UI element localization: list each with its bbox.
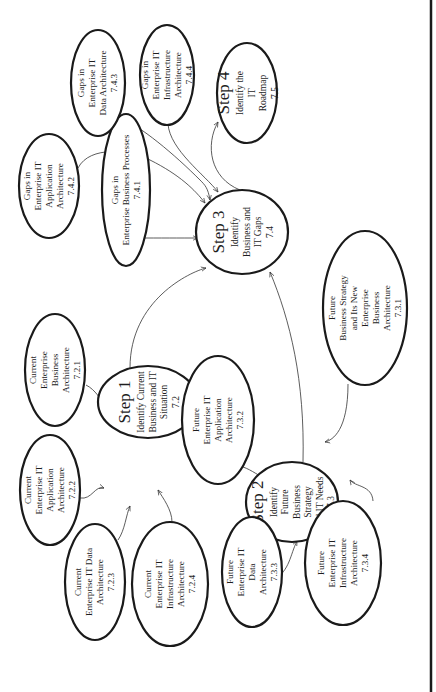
node-label-line: Future [225,560,235,584]
node-label-line: Identify Current [136,371,146,433]
node-section-number: 7.2.3 [106,572,116,591]
edge-step2-to-step3 [270,272,303,462]
node-n743: Gaps inEnterprise ITData Architecture7.4… [71,30,125,136]
node-label-line: Application [44,164,54,208]
node-section-number: 7.4.4 [184,65,194,84]
node-label-line: Current [143,570,153,599]
node-n723: CurrentEnterprise IT DataArchitecture7.2… [65,524,125,640]
node-label-line: Identify [269,487,279,517]
node-label-line: Architecture [173,52,183,98]
node-section-number: 7.4.1 [132,180,142,199]
node-section-number: 7.3.1 [393,298,403,317]
edge-n722-to-step1 [80,488,104,499]
node-label-line: Infrastructure [338,538,348,588]
node-label-line: Enterprise IT [87,58,97,107]
node-label-line: Architecture [95,559,105,605]
node-step4: Step 4Identify theITRoadmap7.5 [214,43,280,143]
node-label-line: Enterprise IT [151,50,161,99]
node-label-line: Architecture [349,540,359,586]
node-label-line: Data Architecture [98,50,108,115]
node-n741: Gaps inEnterprise Business Processes7.4.… [102,114,150,266]
node-label-line: Gaps in [110,175,120,204]
edge-n744-to-step3 [168,124,218,192]
node-label-line: Enterprise IT [34,465,44,514]
node-n733: FutureEnterprise ITDataArchitecture7.3.3 [222,517,282,627]
node-n734: FutureEnterprise ITInfrastructureArchite… [305,501,381,625]
node-section-number: 7.2.2 [67,480,77,499]
node-label-line: Business and IT [148,371,158,432]
node-label-line: Enterprise IT Data [84,548,94,616]
node-label-line: Enterprise [39,351,49,389]
node-section-number: 7.3.3 [269,562,279,581]
nodes-layer: Step 1Identify CurrentBusiness and ITSit… [19,25,407,646]
node-section-number: 7.2.4 [187,574,197,593]
node-label-line: Current [23,476,33,505]
node-label-line: Business [292,485,302,519]
node-section-number: 7.5 [270,87,280,99]
node-label-line: Architecture [176,561,186,607]
node-section-number: 7.4.3 [109,73,119,92]
edge-n734-to-step2 [350,480,373,501]
node-label-line: Gaps in [22,171,32,200]
node-label-line: Enterprise [360,289,370,327]
node-label-line: Infrastructure [165,559,175,609]
node-label-line: Business and [242,207,252,257]
node-label-line: IT [247,88,257,97]
node-label-line: Strategy [303,486,313,518]
node-label-line: Future [280,490,290,515]
node-label-line: Architecture [224,397,234,443]
node-section-number: 7.2.1 [72,360,82,379]
node-n744: Gaps inEnterprise ITInfrastructureArchit… [140,25,195,125]
node-label-line: Enterprise IT [327,538,337,587]
node-section-number: 7.3.4 [360,553,370,572]
node-label-line: Application [45,468,55,512]
node-label-line: Application [213,398,223,442]
node-section-number: 7.4.2 [66,176,76,195]
node-label-line: Architecture [56,467,66,513]
node-label-line: Gaps in [76,68,86,97]
node-section-number: 7.2 [171,396,181,408]
node-label-line: Architecture [55,163,65,209]
node-label-line: Enterprise IT [202,395,212,444]
node-label-line: Business Strategy [338,275,348,341]
edge-step1-to-step3 [130,268,206,368]
node-section-number: 7.3.2 [235,410,245,429]
node-label-line: Identify the [235,71,245,115]
node-n721: CurrentEnterpriseBusinessArchitecture7.2… [25,314,85,426]
node-label-line: IT Gaps [253,216,263,247]
node-n732: FutureEnterprise ITApplicationArchitectu… [182,356,254,484]
node-label-line: Enterprise IT [33,161,43,210]
node-label-line: Gaps in [140,60,150,89]
node-title: Step 1 [115,381,134,424]
node-label-line: Architecture [382,285,392,331]
node-label-line: Business [50,353,60,386]
node-label-line: and Its New [349,285,359,330]
node-label-line: Future [327,296,337,320]
node-label-line: Current [28,356,38,385]
node-title: Step 3 [209,211,228,254]
node-section-number: 7.4 [265,226,275,238]
node-label-line: Infrastructure [162,50,172,100]
edge-n724-to-step1 [158,490,172,522]
node-label-line: Roadmap [258,75,268,112]
node-label-line: Business [371,291,381,324]
node-label-line: Enterprise IT [154,559,164,608]
node-title: Step 4 [214,71,233,114]
node-label-line: Enterprise Business Processes [121,134,131,245]
node-label-line: Data [247,563,257,580]
node-label-line: Current [73,568,83,597]
node-label-line: Future [316,551,326,575]
node-n742: Gaps inEnterprise ITApplicationArchitect… [19,134,79,238]
node-label-line: Identify [230,217,240,247]
node-label-line: Situation [159,385,169,420]
node-n731: FutureBusiness Strategyand Its NewEnterp… [323,231,407,385]
node-label-line: Enterprise IT [236,547,246,596]
edge-n723-to-step1 [118,506,130,540]
node-step3: Step 3IdentifyBusiness andIT Gaps7.4 [196,190,288,274]
edge-n731-to-step2 [325,384,348,442]
node-n724: CurrentEnterprise ITInfrastructureArchit… [132,522,208,646]
roadmap-diagram: Step 1Identify CurrentBusiness and ITSit… [0,0,436,692]
node-label-line: Architecture [258,549,268,595]
node-label-line: Future [191,408,201,432]
node-label-line: Architecture [61,347,71,393]
